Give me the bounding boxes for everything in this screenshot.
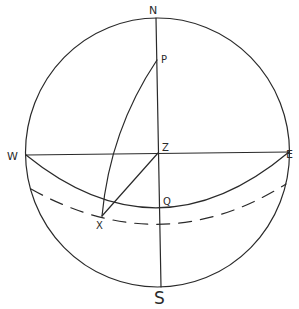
label-s: S [154, 288, 165, 308]
label-e: E [286, 148, 293, 161]
dashed-parallel-arc [31, 184, 286, 224]
celestial-sphere-diagram: N P W E Z Q X S [0, 0, 299, 309]
label-w: W [7, 150, 18, 163]
label-x: X [96, 220, 103, 231]
label-q: Q [163, 196, 171, 207]
label-n: N [149, 4, 157, 17]
label-p: P [161, 54, 167, 65]
arc-p-x [102, 60, 157, 216]
arc-w-q-e [26, 152, 289, 208]
label-z: Z [162, 142, 169, 153]
line-z-x [102, 153, 158, 216]
